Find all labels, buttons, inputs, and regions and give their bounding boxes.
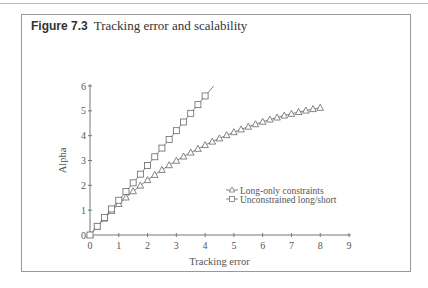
triangle-marker xyxy=(130,188,137,194)
triangle-marker xyxy=(202,142,209,148)
x-tick-label: 2 xyxy=(145,240,150,251)
x-axis-label: Tracking error xyxy=(189,256,250,267)
series-line-triangle xyxy=(90,108,320,235)
x-tick-label: 9 xyxy=(347,240,352,251)
square-marker xyxy=(94,223,100,229)
triangle-marker xyxy=(195,145,202,151)
legend-square-icon xyxy=(230,197,235,202)
y-tick-label: 5 xyxy=(81,105,86,116)
chart: 01234567890123456Tracking errorAlphaLong… xyxy=(0,0,428,288)
y-tick-label: 2 xyxy=(81,180,86,191)
legend-triangle-icon xyxy=(229,187,235,192)
x-tick-label: 1 xyxy=(116,240,121,251)
y-tick-label: 0 xyxy=(81,230,86,241)
x-tick-label: 4 xyxy=(203,240,208,251)
square-marker xyxy=(87,232,93,238)
triangle-marker xyxy=(173,157,180,163)
square-marker xyxy=(188,110,194,116)
square-marker xyxy=(159,145,165,151)
square-marker xyxy=(152,154,158,160)
square-marker xyxy=(130,180,136,186)
square-marker xyxy=(195,102,201,108)
series-line-square xyxy=(90,86,214,235)
triangle-marker xyxy=(180,153,187,159)
triangle-marker xyxy=(187,149,194,155)
y-tick-label: 6 xyxy=(81,81,86,92)
x-tick-label: 7 xyxy=(289,240,294,251)
triangle-marker xyxy=(159,166,166,172)
y-tick-label: 3 xyxy=(81,155,86,166)
x-tick-label: 6 xyxy=(260,240,265,251)
legend-label: Unconstrained long/short xyxy=(240,195,337,205)
square-marker xyxy=(145,162,151,168)
x-tick-label: 0 xyxy=(88,240,93,251)
triangle-marker xyxy=(137,182,144,188)
triangle-marker xyxy=(223,132,230,138)
square-marker xyxy=(181,119,187,125)
x-tick-label: 3 xyxy=(174,240,179,251)
triangle-marker xyxy=(209,138,216,144)
square-marker xyxy=(109,206,115,212)
square-marker xyxy=(166,136,172,142)
x-tick-label: 8 xyxy=(318,240,323,251)
triangle-marker xyxy=(317,104,324,110)
triangle-marker xyxy=(144,177,151,183)
triangle-marker xyxy=(166,162,173,168)
y-tick-label: 1 xyxy=(81,205,86,216)
triangle-marker xyxy=(216,135,223,141)
square-marker xyxy=(137,171,143,177)
triangle-marker xyxy=(151,171,158,177)
x-tick-label: 5 xyxy=(231,240,236,251)
square-marker xyxy=(202,93,208,99)
square-marker xyxy=(173,128,179,134)
y-axis-label: Alpha xyxy=(57,147,68,173)
square-marker xyxy=(116,197,122,203)
square-marker xyxy=(123,189,129,195)
square-marker xyxy=(101,215,107,221)
y-tick-label: 4 xyxy=(81,130,86,141)
